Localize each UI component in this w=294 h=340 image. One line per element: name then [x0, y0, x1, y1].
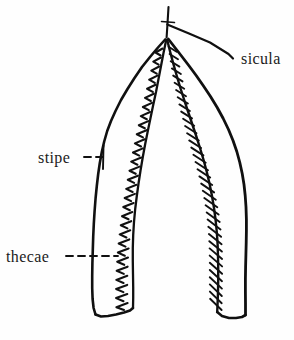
figure-canvas: sicula stipe thecae [0, 0, 294, 340]
graptolite-illustration: sicula stipe thecae [0, 0, 294, 340]
label-stipe: stipe [38, 149, 70, 167]
label-sicula: sicula [241, 50, 281, 67]
label-thecae: thecae [6, 248, 49, 265]
